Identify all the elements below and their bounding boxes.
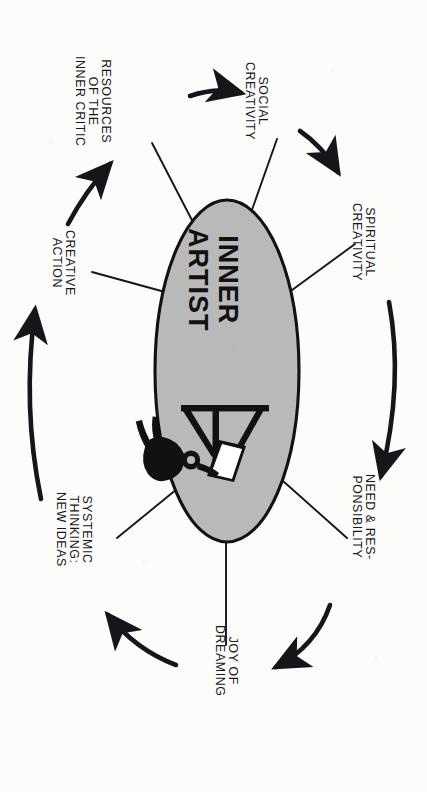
spoke-creative-action: [92, 272, 165, 292]
label-line: RESOURCES: [99, 56, 112, 147]
label-line: SOCIAL: [256, 62, 269, 140]
center-label-line-1: INNER: [213, 228, 243, 332]
node-label-systemic-thinking-new-ideas[interactable]: SYSTEMIC THINKING: NEW IDEAS: [53, 492, 93, 567]
label-line: ACTION: [50, 230, 63, 296]
label-line: THINKING:: [67, 492, 80, 567]
arrow-systemic-to-creative-action: [30, 310, 41, 499]
arrow-need-to-joy: [276, 605, 330, 667]
arrow-creative-action-to-resources: [68, 164, 110, 224]
node-label-spiritual-creativity[interactable]: SPIRITUAL CREATIVITY: [350, 203, 376, 281]
label-line: JOY OF: [226, 625, 239, 697]
label-line: CREATIVITY: [350, 203, 363, 281]
label-line: SYSTEMIC: [80, 492, 93, 567]
node-label-social-creativity[interactable]: SOCIAL CREATIVITY: [243, 62, 269, 140]
label-line: PONSIBILITY: [350, 474, 363, 560]
node-label-joy-of-dreaming[interactable]: JOY OF DREAMING: [213, 625, 239, 697]
center-label: INNER ARTIST: [183, 228, 243, 332]
spoke-need: [283, 481, 347, 538]
label-line: CREATIVE: [63, 230, 76, 296]
node-label-need-and-responsibility[interactable]: NEED & RES- PONSIBILITY: [350, 474, 376, 560]
arrow-resources-to-social: [190, 91, 241, 96]
arrow-spiritual-to-need: [381, 302, 395, 476]
label-line: DREAMING: [213, 625, 226, 697]
diagram-canvas: INNER ARTIST RESOURCES OF THE INNER CRIT…: [0, 0, 427, 792]
label-line: NEW IDEAS: [53, 492, 66, 567]
spoke-spiritual: [288, 244, 355, 293]
label-line: INNER CRITIC: [72, 56, 85, 147]
center-label-line-2: ARTIST: [183, 228, 213, 332]
spoke-resources: [152, 143, 196, 228]
arrow-social-to-spiritual: [300, 131, 338, 172]
label-line: CREATIVITY: [243, 62, 256, 140]
arrow-joy-to-systemic: [108, 615, 176, 665]
label-line: OF THE: [86, 56, 99, 147]
label-line: NEED & RES-: [363, 474, 376, 560]
label-line: SPIRITUAL: [363, 203, 376, 281]
node-label-resources-of-the-inner-critic[interactable]: RESOURCES OF THE INNER CRITIC: [72, 56, 112, 147]
node-label-creative-action[interactable]: CREATIVE ACTION: [50, 230, 76, 296]
